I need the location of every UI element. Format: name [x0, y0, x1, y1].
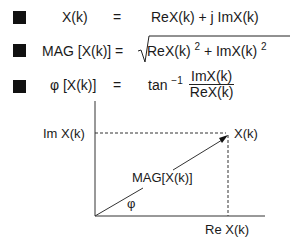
angle-label: φ — [127, 196, 135, 211]
point-label: X(k) — [234, 126, 258, 141]
y-axis-label: Im X(k) — [43, 126, 85, 141]
x-axis-label: Re X(k) — [205, 222, 249, 237]
phasor-diagram — [0, 0, 303, 245]
vector-label: MAG[X(k)] — [132, 170, 193, 185]
